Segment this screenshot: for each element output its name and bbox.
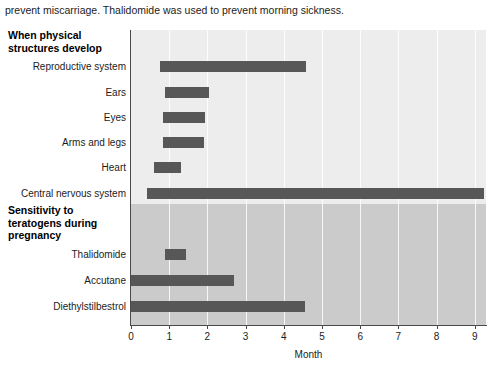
category-label-heart: Heart	[102, 163, 126, 173]
gridline-month-5	[322, 30, 323, 325]
x-tick-label-0: 0	[121, 331, 141, 342]
x-tick-label-5: 5	[312, 331, 332, 342]
category-label-arms-and-legs: Arms and legs	[62, 138, 126, 148]
category-label-reproductive-system: Reproductive system	[33, 62, 126, 72]
category-label-diethylstilbestrol: Diethylstilbestrol	[53, 302, 126, 312]
x-tick-label-2: 2	[197, 331, 217, 342]
category-label-eyes: Eyes	[104, 113, 126, 123]
x-tick-label-6: 6	[350, 331, 370, 342]
category-label-thalidomide: Thalidomide	[72, 250, 126, 260]
x-tick-label-7: 7	[388, 331, 408, 342]
category-label-accutane: Accutane	[84, 276, 126, 286]
x-axis-line	[130, 325, 487, 326]
x-tick-label-8: 8	[427, 331, 447, 342]
gridline-month-3	[246, 30, 247, 325]
x-tick-3	[246, 325, 247, 329]
gridline-month-8	[437, 30, 438, 325]
x-tick-5	[322, 325, 323, 329]
bar-thalidomide	[165, 249, 186, 260]
x-tick-2	[207, 325, 208, 329]
section-heading-development: When physical structures develop	[8, 29, 126, 54]
gridline-month-7	[398, 30, 399, 325]
bar-arms-and-legs	[163, 137, 203, 148]
section-heading-sensitivity: Sensitivity to teratogens during pregnan…	[8, 204, 126, 242]
x-tick-label-4: 4	[274, 331, 294, 342]
bar-central-nervous-system	[147, 188, 484, 199]
bar-eyes	[163, 112, 205, 123]
x-tick-9	[475, 325, 476, 329]
y-axis-line	[130, 30, 131, 325]
bar-ears	[165, 87, 209, 98]
plot-area	[131, 30, 486, 325]
bar-accutane	[131, 275, 234, 286]
gridline-month-6	[360, 30, 361, 325]
category-label-ears: Ears	[105, 88, 126, 98]
x-tick-8	[437, 325, 438, 329]
page-caption: prevent miscarriage. Thalidomide was use…	[5, 3, 475, 17]
figure-teratogen-timeline: When physical structures develop Sensiti…	[0, 24, 492, 365]
bar-diethylstilbestrol	[131, 301, 305, 312]
x-axis-title: Month	[131, 349, 486, 360]
x-tick-label-3: 3	[236, 331, 256, 342]
gridline-month-4	[284, 30, 285, 325]
x-tick-label-9: 9	[465, 331, 485, 342]
bar-heart	[154, 162, 181, 173]
x-tick-6	[360, 325, 361, 329]
x-tick-0	[131, 325, 132, 329]
category-label-central-nervous-system: Central nervous system	[21, 189, 126, 199]
gridline-month-9	[475, 30, 476, 325]
x-tick-label-1: 1	[159, 331, 179, 342]
x-tick-7	[398, 325, 399, 329]
x-tick-1	[169, 325, 170, 329]
x-tick-4	[284, 325, 285, 329]
bar-reproductive-system	[160, 61, 306, 72]
